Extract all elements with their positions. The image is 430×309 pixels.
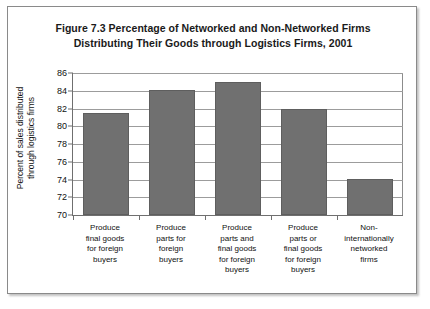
x-axis-label-2: Produceparts forforeignbuyers [138,223,204,265]
y-axis-title: Percent of sales distributed through log… [15,58,37,218]
bar-4 [281,109,327,216]
bar-1 [83,113,129,215]
y-tick-mark-74 [68,179,73,180]
x-axis-label-line: final goods [72,234,138,245]
x-axis-label-line: Produce [72,223,138,234]
x-axis-label-line: networked [336,244,402,255]
x-axis-label-line: buyers [204,265,270,276]
bar-5 [347,179,393,215]
y-tick-label-70: 70 [57,210,67,220]
x-axis-category-labels: Producefinal goodsfor foreignbuyersProdu… [72,223,402,285]
x-axis-label-line: for foreign [204,255,270,266]
x-tick-mark-5 [337,215,338,220]
chart-title: Figure 7.3 Percentage of Networked and N… [8,21,418,51]
y-tick-mark-76 [68,161,73,162]
y-axis-title-line-2: through logistics firms [26,58,37,218]
plot-area: 868482807876747270 [72,73,403,216]
y-tick-label-82: 82 [57,104,67,114]
y-tick-label-84: 84 [57,86,67,96]
x-axis-label-line: buyers [72,255,138,266]
y-tick-label-78: 78 [57,139,67,149]
y-tick-label-74: 74 [57,175,67,185]
x-axis-label-line: buyers [270,265,336,276]
y-tick-label-80: 80 [57,121,67,131]
x-axis-label-line: parts for [138,234,204,245]
y-tick-mark-80 [68,126,73,127]
x-axis-label-line: for foreign [270,255,336,266]
x-axis-label-4: Produceparts orfinal goodsfor foreignbuy… [270,223,336,276]
y-tick-mark-72 [68,197,73,198]
gridline-86 [73,73,403,74]
y-tick-mark-84 [68,90,73,91]
x-axis-label-line: final goods [204,244,270,255]
bar-2 [149,90,195,215]
x-axis-label-1: Producefinal goodsfor foreignbuyers [72,223,138,265]
bar-3 [215,82,261,215]
x-axis-label-5: Non-internationallynetworkedfirms [336,223,402,265]
x-axis-label-line: Non- [336,223,402,234]
chart-title-line-2: Distributing Their Goods through Logisti… [8,36,418,51]
x-axis-label-line: firms [336,255,402,266]
x-axis-label-line: parts or [270,234,336,245]
x-axis-label-line: parts and [204,234,270,245]
figure-frame: Figure 7.3 Percentage of Networked and N… [7,6,417,294]
x-tick-mark-1 [73,215,74,220]
chart-title-line-1: Figure 7.3 Percentage of Networked and N… [8,21,418,36]
y-axis-title-line-1: Percent of sales distributed [15,58,26,218]
x-axis-label-line: final goods [270,244,336,255]
x-axis-label-line: Produce [270,223,336,234]
x-axis-label-line: foreign [138,244,204,255]
y-tick-label-86: 86 [57,68,67,78]
x-axis-label-3: Produceparts andfinal goodsfor foreignbu… [204,223,270,276]
x-axis-label-line: Produce [138,223,204,234]
x-axis-label-line: for foreign [72,244,138,255]
y-tick-label-72: 72 [57,192,67,202]
y-tick-label-76: 76 [57,157,67,167]
x-axis-label-line: Produce [204,223,270,234]
y-tick-mark-78 [68,144,73,145]
x-axis-label-line: buyers [138,255,204,266]
x-axis-label-line: internationally [336,234,402,245]
y-tick-mark-86 [68,73,73,74]
x-tick-mark-4 [271,215,272,220]
x-tick-mark-2 [139,215,140,220]
y-tick-mark-82 [68,108,73,109]
x-tick-mark-3 [205,215,206,220]
